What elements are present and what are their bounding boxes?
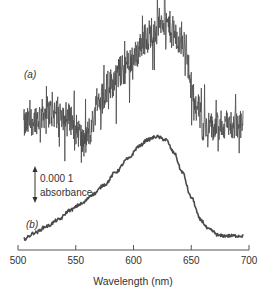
x-axis: 500550600650700 xyxy=(10,245,258,266)
plot-area xyxy=(24,0,243,240)
x-tick-label: 550 xyxy=(67,255,84,266)
x-tick-label: 650 xyxy=(183,255,200,266)
series-label-b: (b) xyxy=(26,219,38,230)
scale-bar-arrowhead-up-icon xyxy=(33,166,38,172)
chart: 500550600650700 Wavelength (nm) 0.000 1 … xyxy=(0,0,266,290)
x-tick-label: 600 xyxy=(125,255,142,266)
series-line-a xyxy=(24,0,243,163)
x-tick-label: 500 xyxy=(10,255,27,266)
x-tick-label: 700 xyxy=(241,255,258,266)
series-label-a: (a) xyxy=(24,69,36,80)
x-axis-label: Wavelength (nm) xyxy=(93,275,173,287)
scale-bar-arrowhead-down-icon xyxy=(33,197,38,203)
scale-bar-value: 0.000 1 xyxy=(40,173,74,184)
scale-bar-unit: absorbance xyxy=(40,187,93,198)
scale-bar: 0.000 1 absorbance xyxy=(33,166,93,203)
